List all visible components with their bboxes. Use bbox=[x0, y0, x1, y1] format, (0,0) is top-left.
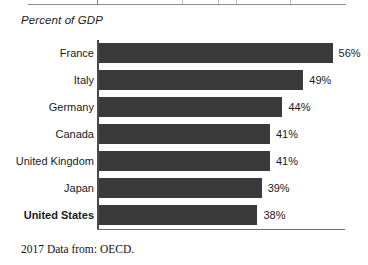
bar-row: Japan39% bbox=[0, 178, 368, 198]
bar-row: Canada41% bbox=[0, 124, 368, 144]
bar-value-label: 44% bbox=[288, 97, 310, 117]
bar-value-label: 56% bbox=[339, 43, 361, 63]
bar-value-label: 38% bbox=[263, 205, 285, 225]
tick-mark bbox=[218, 0, 219, 4]
tick-mark bbox=[182, 0, 183, 4]
bar-category-label: Japan bbox=[64, 178, 94, 198]
source-note: 2017 Data from: OECD. bbox=[21, 243, 134, 255]
bar-value-label: 39% bbox=[268, 178, 290, 198]
bar-rect bbox=[99, 43, 333, 63]
value-axis-baseline bbox=[97, 229, 345, 230]
bar-chart-plot-area: France56%Italy49%Germany44%Canada41%Unit… bbox=[0, 38, 368, 234]
horizontal-rule bbox=[28, 4, 346, 5]
axis-title: Percent of GDP bbox=[21, 14, 103, 26]
bar-row: Germany44% bbox=[0, 97, 368, 117]
tick-mark bbox=[290, 0, 291, 4]
bar-rect bbox=[99, 124, 270, 144]
bar-value-label: 49% bbox=[309, 70, 331, 90]
bar-value-label: 41% bbox=[276, 151, 298, 171]
bar-row: United Kingdom41% bbox=[0, 151, 368, 171]
bar-rect bbox=[99, 151, 270, 171]
bar-rect bbox=[99, 178, 262, 198]
bar-category-label: Germany bbox=[49, 97, 94, 117]
bar-category-label: Canada bbox=[55, 124, 94, 144]
bar-category-label: United Kingdom bbox=[16, 151, 94, 171]
bar-rect bbox=[99, 70, 303, 90]
tick-mark bbox=[236, 0, 237, 4]
bar-row: France56% bbox=[0, 43, 368, 63]
bar-category-label: France bbox=[60, 43, 94, 63]
clipped-top-rule bbox=[0, 0, 368, 8]
bar-row: United States38% bbox=[0, 205, 368, 225]
bar-category-label: United States bbox=[24, 205, 94, 225]
tick-mark bbox=[97, 0, 98, 5]
bar-rect bbox=[99, 205, 257, 225]
bar-category-label: Italy bbox=[74, 70, 94, 90]
bar-value-label: 41% bbox=[276, 124, 298, 144]
bar-row: Italy49% bbox=[0, 70, 368, 90]
bar-rect bbox=[99, 97, 282, 117]
